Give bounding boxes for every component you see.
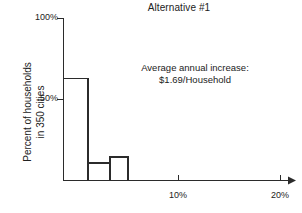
histogram-bar-1 [64, 79, 89, 181]
histogram-bar-2 [88, 163, 110, 181]
chart-figure: Alternative #1 Percent of households in … [0, 0, 302, 213]
histogram-bar-3 [110, 157, 128, 181]
x-axis-arrow-icon [288, 177, 296, 185]
chart-plot-area [0, 0, 302, 213]
